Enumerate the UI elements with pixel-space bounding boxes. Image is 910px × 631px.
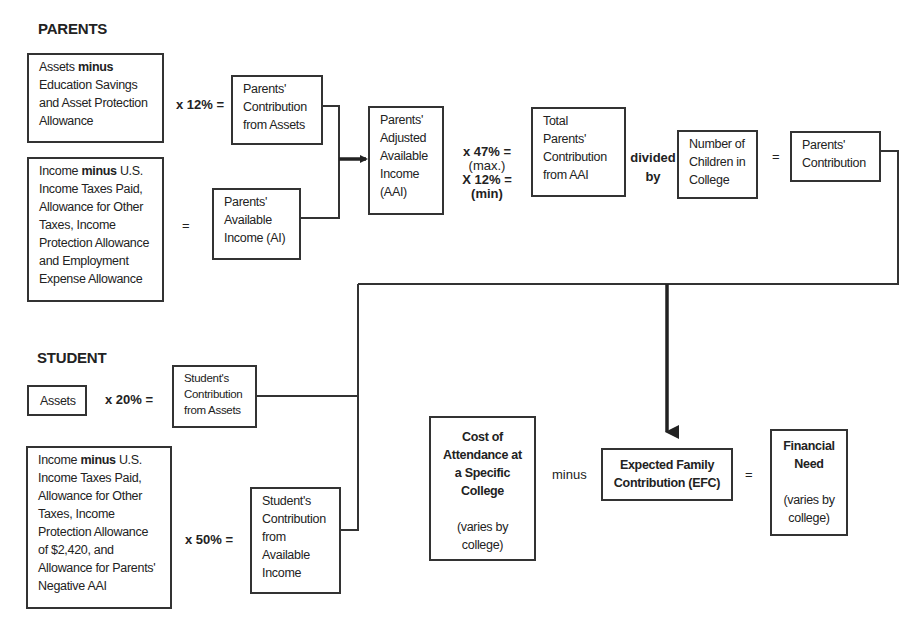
box-text: Parents' <box>380 111 442 129</box>
parents-income-box: Income minus U.S. Income Taxes Paid, All… <box>27 157 164 302</box>
box-text: of $2,420, and <box>38 543 114 557</box>
box-title: Financial <box>772 437 846 455</box>
section-label-parents: PARENTS <box>38 20 107 37</box>
financial-need-box: Financial Need (varies by college) <box>770 429 848 536</box>
box-text: Contribution <box>262 510 339 528</box>
operator-times-12: x 12% = <box>176 97 224 112</box>
connector-student <box>340 284 358 530</box>
box-text: Available <box>224 211 299 229</box>
by-text: by <box>630 167 676 186</box>
box-text: Income (AI) <box>224 229 299 247</box>
box-text: Income Taxes Paid, <box>38 471 141 485</box>
box-title: a Specific <box>431 464 534 482</box>
rate-max-label: (max.) <box>454 159 520 173</box>
operator-aai-rates: x 47% = (max.) X 12% = (min) <box>454 145 520 201</box>
student-income-box: Income minus U.S. Income Taxes Paid, All… <box>26 446 172 609</box>
cropped-header-text <box>30 2 33 12</box>
box-text: Student's <box>262 492 339 510</box>
operator-equals-parents-contribution: = <box>772 149 780 164</box>
rate-min: X 12% = <box>454 173 520 187</box>
box-title: College <box>431 482 534 500</box>
box-text-bold: minus <box>78 60 113 74</box>
box-text: Income <box>39 164 78 178</box>
student-contribution-income-box: Student's Contribution from Available In… <box>250 487 341 594</box>
box-text: Income <box>380 165 442 183</box>
operator-times-50: x 50% = <box>185 532 233 547</box>
box-text: Allowance <box>39 114 93 128</box>
box-text: Available <box>262 546 339 564</box>
box-text: from Assets <box>243 116 321 134</box>
box-text: Assets <box>40 394 76 408</box>
box-title: Attendance at <box>431 446 534 464</box>
parents-contribution-box: Parents' Contribution <box>790 131 881 182</box>
box-text: Parents' <box>243 80 321 98</box>
cost-of-attendance-box: Cost of Attendance at a Specific College… <box>429 416 536 561</box>
box-text-bold: minus <box>80 453 115 467</box>
divided-text: divided <box>630 148 676 167</box>
box-text-bold: minus <box>81 164 116 178</box>
box-text: Contribution <box>543 148 624 166</box>
box-text: Contribution <box>184 386 255 402</box>
operator-minus: minus <box>552 467 587 482</box>
total-parents-contribution-aai-box: Total Parents' Contribution from AAI <box>531 107 626 197</box>
box-text: from Assets <box>184 402 255 418</box>
box-note: (varies by <box>431 518 534 536</box>
box-title: Need <box>772 455 846 473</box>
student-contribution-assets-box: Student's Contribution from Assets <box>172 365 257 428</box>
box-title: Contribution (EFC) <box>603 474 731 492</box>
rate-max: x 47% = <box>454 145 520 159</box>
operator-times-20: x 20% = <box>105 392 153 407</box>
box-note: college) <box>431 536 534 554</box>
box-text: Protection Allowance <box>38 525 148 539</box>
parents-assets-box: Assets minus Education Savings and Asset… <box>27 53 164 143</box>
box-text: Allowance for Other <box>38 489 142 503</box>
box-text: Taxes, Income <box>39 218 116 232</box>
parents-available-income-box: Parents' Available Income (AI) <box>212 188 301 260</box>
box-text: Income Taxes Paid, <box>39 182 142 196</box>
box-text: Student's <box>184 370 255 386</box>
box-note: (varies by <box>772 491 846 509</box>
box-note: college) <box>772 509 846 527</box>
box-text: Contribution <box>243 98 321 116</box>
box-text: Adjusted <box>380 129 442 147</box>
efc-box: Expected Family Contribution (EFC) <box>601 448 733 501</box>
box-text: Contribution <box>802 154 879 172</box>
box-text: Parents' <box>543 130 624 148</box>
section-label-student: STUDENT <box>37 349 106 366</box>
box-text: and Employment <box>39 254 129 268</box>
box-title: Cost of <box>431 428 534 446</box>
box-text: Number of <box>689 135 756 153</box>
box-text: Children in <box>689 153 756 171</box>
box-text: Assets <box>39 60 75 74</box>
box-text: Negative AAI <box>38 579 107 593</box>
parents-contribution-assets-box: Parents' Contribution from Assets <box>231 75 323 145</box>
box-text: Expense Allowance <box>39 272 142 286</box>
children-in-college-box: Number of Children in College <box>677 130 758 199</box>
operator-equals-ai: = <box>182 218 190 233</box>
box-text: Taxes, Income <box>38 507 115 521</box>
operator-equals-need: = <box>745 467 753 482</box>
box-text: U.S. <box>120 164 143 178</box>
box-text: (AAI) <box>380 183 442 201</box>
box-text: U.S. <box>119 453 142 467</box>
box-text: College <box>689 171 756 189</box>
box-text: Allowance for Other <box>39 200 143 214</box>
operator-divided-by: divided by <box>630 148 676 186</box>
box-text: Income <box>38 453 77 467</box>
box-text: Income <box>262 564 339 582</box>
box-text: Parents' <box>802 136 879 154</box>
box-text: from <box>262 528 339 546</box>
rate-min-label: (min) <box>454 187 520 201</box>
box-text: Parents' <box>224 193 299 211</box>
box-text: Education Savings <box>39 78 137 92</box>
box-text: Protection Allowance <box>39 236 149 250</box>
box-title: Expected Family <box>603 456 731 474</box>
box-text: from AAI <box>543 166 624 184</box>
box-text: Allowance for Parents' <box>38 561 155 575</box>
box-text: and Asset Protection <box>39 96 148 110</box>
student-assets-box: Assets <box>27 385 87 416</box>
box-text: Total <box>543 112 624 130</box>
parents-aai-box: Parents' Adjusted Available Income (AAI) <box>368 106 444 215</box>
box-text: Available <box>380 147 442 165</box>
